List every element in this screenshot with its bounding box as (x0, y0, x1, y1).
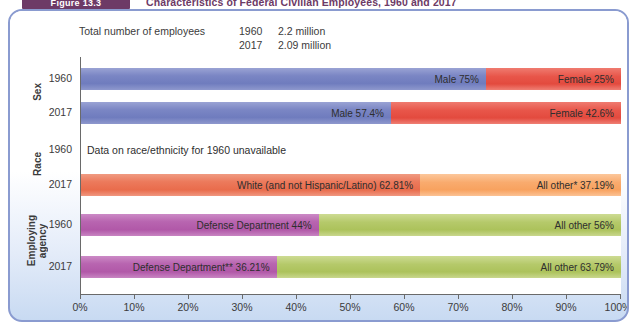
x-axis-tick-10 (134, 294, 135, 299)
segment-race-2017-white: White (and not Hispanic/Latino) 62.81% (81, 174, 420, 196)
segment-race-2017-all-other: All other* 37.19% (420, 174, 621, 196)
segment-agency-1960-all-other: All other 56% (319, 214, 621, 236)
plot-area: Male 75% Female 25% Male 57.4% Female 42… (80, 57, 621, 294)
x-axis-tick-20 (188, 294, 189, 299)
x-axis-tick-50 (350, 294, 351, 299)
x-axis-label-20: 20% (168, 301, 208, 313)
group-label-sex-text: Sex (32, 83, 43, 101)
bar-race-2017: White (and not Hispanic/Latino) 62.81% A… (81, 174, 621, 196)
race-1960-unavailable-note: Data on race/ethnicity for 1960 unavaila… (87, 139, 286, 161)
total-employees-value-2017: 2.09 million (278, 39, 331, 51)
x-axis-tick-40 (296, 294, 297, 299)
x-axis-label-40: 40% (276, 301, 316, 313)
x-axis-tick-90 (566, 294, 567, 299)
x-axis-label-70: 70% (438, 301, 478, 313)
x-axis-label-90: 90% (546, 301, 586, 313)
segment-label-race-2017-all-other: All other* 37.19% (537, 180, 614, 191)
x-axis-tick-30 (242, 294, 243, 299)
x-axis-label-30: 30% (222, 301, 262, 313)
total-employees-label: Total number of employees (79, 25, 205, 37)
segment-label-sex-1960-male: Male 75% (435, 74, 479, 85)
bar-agency-1960: Defense Department 44% All other 56% (81, 214, 621, 236)
year-label-agency-1960: 1960 (32, 217, 72, 231)
race-1960-unavailable-text: Data on race/ethnicity for 1960 unavaila… (87, 144, 286, 156)
segment-label-agency-1960-defense: Defense Department 44% (197, 220, 312, 231)
year-label-race-1960: 1960 (32, 142, 72, 156)
x-axis-tick-60 (404, 294, 405, 299)
segment-label-sex-2017-female: Female 42.6% (550, 108, 614, 119)
x-axis-tick-0 (80, 294, 81, 299)
year-label-sex-1960: 1960 (32, 71, 72, 85)
year-label-race-2017: 2017 (32, 177, 72, 191)
chart-panel: Total number of employees 1960 2.2 milli… (8, 9, 629, 322)
segment-label-agency-2017-all-other: All other 63.79% (541, 262, 614, 273)
segment-sex-2017-male: Male 57.4% (81, 102, 391, 124)
year-label-agency-2017: 2017 (32, 259, 72, 273)
bar-sex-2017: Male 57.4% Female 42.6% (81, 102, 621, 124)
x-axis-label-50: 50% (330, 301, 370, 313)
segment-label-sex-1960-female: Female 25% (558, 74, 614, 85)
figure-number-badge: Figure 13.3 (22, 0, 130, 9)
x-axis-tick-100 (620, 294, 621, 299)
segment-label-sex-2017-male: Male 57.4% (331, 108, 384, 119)
x-axis-label-100: 100% (598, 301, 629, 313)
segment-agency-2017-defense: Defense Department** 36.21% (81, 256, 277, 278)
bar-agency-2017: Defense Department** 36.21% All other 63… (81, 256, 621, 278)
total-employees-note: Total number of employees 1960 2.2 milli… (10, 11, 629, 57)
year-label-sex-2017: 2017 (32, 105, 72, 119)
bar-sex-1960: Male 75% Female 25% (81, 68, 621, 90)
segment-label-race-2017-white: White (and not Hispanic/Latino) 62.81% (237, 180, 413, 191)
total-employees-year-2017: 2017 (239, 39, 262, 51)
total-employees-value-1960: 2.2 million (278, 25, 325, 37)
x-axis-label-10: 10% (114, 301, 154, 313)
segment-agency-1960-defense: Defense Department 44% (81, 214, 319, 236)
x-axis-tick-80 (512, 294, 513, 299)
x-axis-label-0: 0% (60, 301, 100, 313)
x-axis-label-80: 80% (492, 301, 532, 313)
segment-agency-2017-all-other: All other 63.79% (277, 256, 621, 278)
figure-title: Characteristics of Federal Civilian Empl… (146, 0, 457, 8)
segment-sex-1960-female: Female 25% (486, 68, 621, 90)
figure-title-strip: Figure 13.3 Characteristics of Federal C… (0, 0, 637, 9)
x-axis-label-60: 60% (384, 301, 424, 313)
x-axis-tick-70 (458, 294, 459, 299)
segment-sex-1960-male: Male 75% (81, 68, 486, 90)
total-employees-year-1960: 1960 (239, 25, 262, 37)
segment-label-agency-2017-defense: Defense Department** 36.21% (133, 262, 270, 273)
segment-sex-2017-female: Female 42.6% (391, 102, 621, 124)
segment-label-agency-1960-all-other: All other 56% (555, 220, 614, 231)
